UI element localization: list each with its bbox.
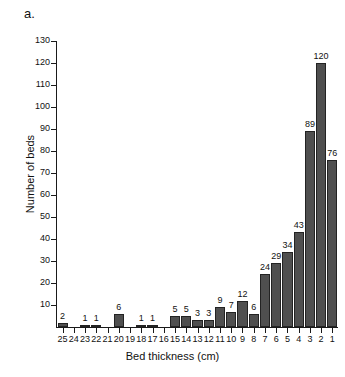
y-axis-tick-label: 130 [24,36,50,45]
x-axis-tick [108,328,109,333]
y-axis-tick [51,173,57,174]
x-axis-tick [74,328,75,333]
x-axis-tick [186,328,187,333]
bar-value-label: 1 [85,314,107,323]
bar [147,325,157,327]
bar [271,263,281,327]
x-axis-tick [153,328,154,333]
bar [136,325,146,327]
y-axis-tick-label: 10 [24,300,50,309]
bar [80,325,90,327]
bar [282,252,292,327]
bar-value-label: 1 [142,314,164,323]
bar [91,325,101,327]
x-axis-tick [310,328,311,333]
bar [226,312,236,327]
bar [249,314,259,327]
x-axis-tick [220,328,221,333]
x-axis-tick [198,328,199,333]
y-axis-tick [51,151,57,152]
bar [192,320,202,327]
x-axis-title: Bed thickness (cm) [0,350,345,362]
x-axis-tick [265,328,266,333]
bar [260,274,270,327]
x-axis-tick [287,328,288,333]
bar-value-label: 120 [310,52,332,61]
y-axis-tick-label: 50 [24,212,50,221]
x-axis-tick [130,328,131,333]
y-axis-tick [51,85,57,86]
x-axis-tick [209,328,210,333]
y-axis-tick [51,261,57,262]
bar [58,323,68,327]
y-axis-tick [51,305,57,306]
x-axis-tick [164,328,165,333]
y-axis-tick-label: 90 [24,124,50,133]
x-axis-tick [141,328,142,333]
y-axis-tick-label: 120 [24,58,50,67]
x-axis-tick [242,328,243,333]
x-axis-tick [231,328,232,333]
y-axis-tick [51,41,57,42]
x-axis-tick [332,328,333,333]
y-axis-tick-label: 40 [24,234,50,243]
y-axis-tick-label: 100 [24,102,50,111]
y-axis-tick [51,217,57,218]
x-axis-tick [63,328,64,333]
x-axis-tick-label: 1 [324,334,340,344]
bar [294,232,304,327]
x-axis-tick [85,328,86,333]
y-axis-tick-label: 20 [24,278,50,287]
y-axis-tick [51,239,57,240]
x-axis-tick [299,328,300,333]
y-axis-tick [51,63,57,64]
bar-value-label: 2 [52,312,74,321]
bar [170,316,180,327]
bar [114,314,124,327]
x-axis-tick [276,328,277,333]
x-axis-tick [119,328,120,333]
y-axis-tick-label: 80 [24,146,50,155]
bar-value-label: 6 [108,303,130,312]
y-axis-tick [51,129,57,130]
bar [316,63,326,327]
y-axis-tick [51,283,57,284]
bar [204,320,214,327]
figure-panel-a: a. Number of beds 1020304050607080901001… [0,0,345,377]
bar-value-label: 76 [321,149,343,158]
x-axis-tick [321,328,322,333]
y-axis-tick [51,195,57,196]
x-axis-tick [254,328,255,333]
y-axis-tick-label: 70 [24,168,50,177]
x-axis-tick [96,328,97,333]
bar [327,160,337,327]
y-axis-tick-label: 60 [24,190,50,199]
y-axis-tick [51,107,57,108]
x-axis-tick [175,328,176,333]
bar [305,131,315,327]
y-axis-tick-labels: 102030405060708090100110120130 [20,0,50,377]
bar-value-label: 12 [231,290,253,299]
bar [215,307,225,327]
y-axis-tick-label: 110 [24,80,50,89]
y-axis-tick-label: 30 [24,256,50,265]
